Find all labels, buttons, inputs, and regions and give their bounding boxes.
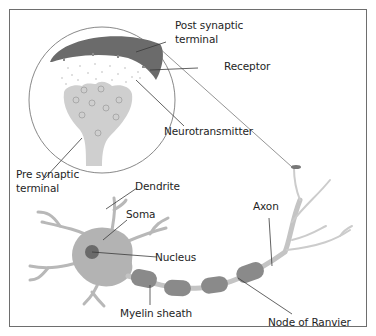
label-receptor: Receptor <box>224 60 270 72</box>
label-post-synaptic-line2: terminal <box>175 33 218 45</box>
label-axon: Axon <box>253 200 279 212</box>
label-pre-synaptic-line1: Pre synaptic <box>16 168 79 180</box>
label-pre-synaptic-line2: terminal <box>16 182 59 194</box>
post-synaptic-terminal <box>50 36 163 80</box>
label-soma: Soma <box>126 208 155 220</box>
pre-synaptic-terminal <box>64 82 133 166</box>
label-nucleus: Nucleus <box>155 251 196 263</box>
label-dendrite: Dendrite <box>135 180 180 192</box>
label-post-synaptic-line1: Post synaptic <box>175 19 243 31</box>
neurotransmitter-dots <box>61 63 141 85</box>
soma <box>72 228 133 287</box>
label-myelin-sheath: Myelin sheath <box>120 307 192 319</box>
label-node-of-ranvier: Node of Ranvier <box>268 316 351 328</box>
label-neurotransmitter: Neurotransmitter <box>164 125 253 137</box>
